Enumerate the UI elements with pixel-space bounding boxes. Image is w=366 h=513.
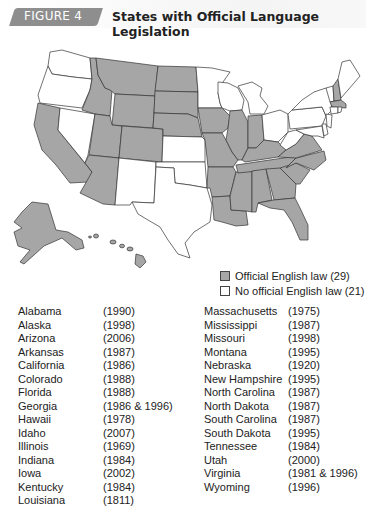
list-item: Florida(1988) — [18, 386, 173, 400]
us-map-svg — [0, 30, 366, 270]
list-item: Illinois(1969) — [18, 440, 173, 454]
list-item: South Carolina(1987) — [204, 413, 358, 427]
state-FL — [258, 198, 308, 240]
list-item: Massachusetts(1975) — [204, 305, 358, 319]
us-map — [0, 30, 366, 270]
list-item: Colorado(1988) — [18, 373, 173, 387]
list-item: Iowa(2002) — [18, 467, 173, 481]
state-WY — [112, 94, 155, 128]
list-item: Utah(2000) — [204, 454, 358, 468]
list-item: South Dakota(1995) — [204, 427, 358, 441]
list-item: California(1986) — [18, 359, 173, 373]
list-item: Missouri(1998) — [204, 332, 358, 346]
state-CT — [330, 107, 338, 114]
list-item: Hawaii(1978) — [18, 413, 173, 427]
list-item: Georgia(1986 & 1996) — [18, 400, 173, 414]
state-HI — [89, 234, 147, 268]
state-ND — [155, 66, 198, 92]
state-PA — [288, 107, 326, 129]
list-item: Tennessee(1984) — [204, 440, 358, 454]
state-NM — [115, 158, 156, 205]
states-list-column-2: Massachusetts(1975) Mississippi(1987) Mi… — [204, 305, 358, 494]
list-item: Alabama(1990) — [18, 305, 173, 319]
state-NJ — [326, 114, 332, 128]
list-item: Nebraska(1920) — [204, 359, 358, 373]
list-item: Arizona(2006) — [18, 332, 173, 346]
legend-label-official: Official English law (29) — [235, 270, 350, 282]
state-ME — [338, 60, 360, 98]
list-item: North Dakota(1987) — [204, 400, 358, 414]
list-item: Louisiana(1811) — [18, 494, 173, 508]
list-item: Virginia(1981 & 1996) — [204, 467, 358, 481]
state-KS — [162, 136, 205, 162]
legend-item-official: Official English law (29) — [220, 268, 364, 283]
list-item: Kentucky(1984) — [18, 481, 173, 495]
list-item: Montana(1995) — [204, 346, 358, 360]
list-item: North Carolina(1987) — [204, 386, 358, 400]
state-OH — [262, 110, 288, 142]
figure-header: FIGURE 4 States with Official Language L… — [0, 0, 366, 28]
map-legend: Official English law (29) No official En… — [220, 268, 364, 298]
state-AK — [14, 202, 84, 264]
list-item: Alaska(1998) — [18, 319, 173, 333]
figure-label: FIGURE 4 — [24, 9, 82, 23]
legend-swatch-none — [220, 286, 230, 296]
list-item: Arkansas(1987) — [18, 346, 173, 360]
state-IA — [198, 108, 230, 133]
legend-item-none: No official English law (21) — [220, 283, 364, 298]
list-item: Mississippi(1987) — [204, 319, 358, 333]
list-item: Indiana(1984) — [18, 454, 173, 468]
legend-label-none: No official English law (21) — [235, 285, 364, 297]
states-list-column-1: Alabama(1990) Alaska(1998) Arizona(2006)… — [18, 305, 173, 508]
state-RI — [338, 107, 342, 113]
list-item: Idaho(2007) — [18, 427, 173, 441]
state-CO — [119, 126, 163, 162]
list-item: New Hampshire(1995) — [204, 373, 358, 387]
legend-swatch-official — [220, 271, 230, 281]
list-item: Wyoming(1996) — [204, 481, 358, 495]
